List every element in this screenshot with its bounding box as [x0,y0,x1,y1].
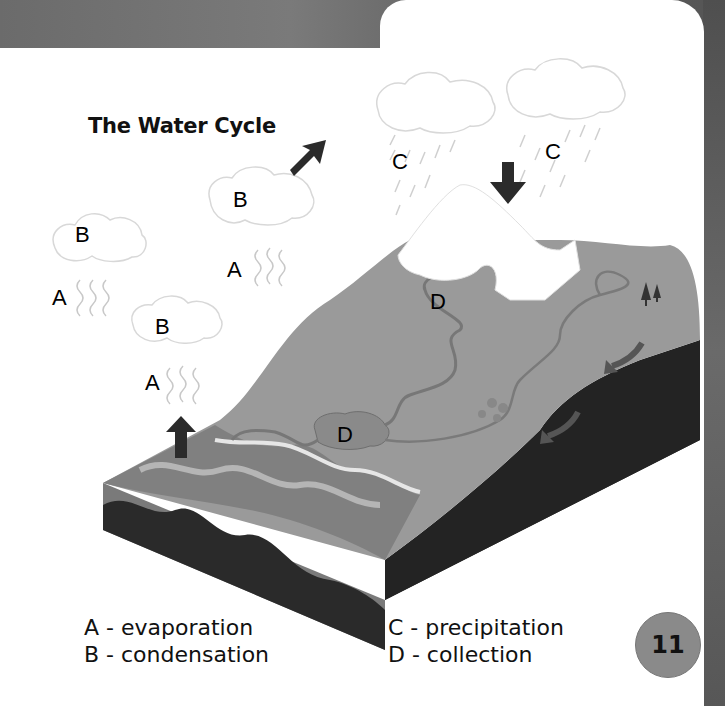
legend-item-d: D - collection [388,641,564,668]
label-precipitation: C [545,139,561,165]
label-collection: D [430,289,446,315]
page-number-badge: 11 [635,612,701,678]
label-condensation: B [233,187,248,213]
label-evaporation: A [227,257,242,283]
cloud-C-right [507,59,625,119]
label-evaporation: A [145,370,160,396]
cloud-B-left [53,214,146,262]
legend-item-c: C - precipitation [388,614,564,641]
legend-left: A - evaporation B - condensation [84,614,269,668]
water-cycle-illustration [0,0,725,706]
label-condensation: B [155,314,170,340]
cloud-B-low [132,296,222,343]
arrow-down-icon [490,162,526,204]
legend-right: C - precipitation D - collection [388,614,564,668]
label-evaporation: A [52,285,67,311]
legend-item-a: A - evaporation [84,614,269,641]
label-collection: D [337,422,353,448]
page-title: The Water Cycle [88,114,276,138]
legend-item-b: B - condensation [84,641,269,668]
label-precipitation: C [392,149,408,175]
arrow-up-right-icon [290,140,326,176]
cloud-C-left [377,72,495,133]
label-condensation: B [75,222,90,248]
cloud-B-mid [209,167,314,225]
